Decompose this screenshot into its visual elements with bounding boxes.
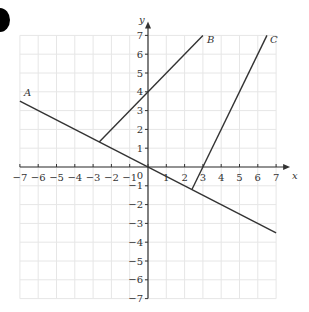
y-tick-label: −2 [128,199,143,210]
y-tick-label: 6 [137,49,143,60]
x-tick-label: −2 [104,172,119,183]
y-tick-label: −1 [128,180,143,191]
line-c-label: C [270,34,278,45]
x-tick-label: 5 [236,172,242,183]
x-tick-label: −6 [31,172,46,183]
x-tick-label: −3 [86,172,101,183]
line-b [99,35,203,142]
y-tick-label: 1 [137,143,143,154]
y-tick-label: 7 [137,30,143,41]
y-tick-label: 2 [137,124,143,135]
line-b-label: B [206,34,214,45]
x-tick-label: −4 [67,172,82,183]
x-tick-label: 2 [181,172,187,183]
x-axis-arrow-icon [283,164,290,170]
y-tick-label: −3 [128,218,143,229]
line-a-label: A [23,87,31,98]
x-tick-label: 3 [200,172,206,183]
x-axis-label: x [292,170,298,181]
y-tick-label: 3 [137,105,143,116]
x-tick-label: 6 [255,172,261,183]
y-axis-label: y [138,14,145,25]
y-tick-label: 4 [137,86,143,97]
y-tick-label: −6 [128,274,143,285]
coordinate-plot: −7−6−5−4−3−2−112345670−7−6−5−4−3−2−11234… [0,0,309,312]
y-tick-label: −7 [128,293,143,304]
x-tick-label: 4 [218,172,224,183]
y-tick-label: 5 [137,68,143,79]
y-axis-arrow-icon [145,21,151,28]
x-tick-label: −7 [13,172,28,183]
x-tick-label: −5 [49,172,64,183]
y-tick-label: −5 [128,256,143,267]
y-tick-label: −4 [128,237,143,248]
x-tick-label: 7 [273,172,279,183]
